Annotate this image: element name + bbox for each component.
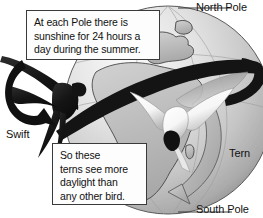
- callout-bottom-line-2: terns see more: [60, 163, 142, 177]
- label-south-pole: South Pole: [196, 203, 249, 215]
- callout-top-line-2: sunshine for 24 hours a: [34, 30, 154, 44]
- label-tern: Tern: [229, 147, 250, 159]
- callout-bottom-line-3: daylight than: [60, 176, 142, 190]
- label-swift: Swift: [6, 128, 29, 140]
- callout-polar-sunshine: At each Pole there is sunshine for 24 ho…: [26, 10, 160, 60]
- callout-bottom-line-4: any other bird.: [60, 190, 142, 204]
- callout-bottom-line-1: So these: [60, 149, 142, 163]
- callout-top-line-3: day during the summer.: [34, 43, 154, 57]
- bird-migration-diagram: At each Pole there is sunshine for 24 ho…: [0, 0, 263, 218]
- callout-top-line-1: At each Pole there is: [34, 16, 154, 30]
- label-north-pole: North Pole: [196, 1, 247, 13]
- callout-tern-daylight: So these terns see more daylight than an…: [52, 143, 147, 205]
